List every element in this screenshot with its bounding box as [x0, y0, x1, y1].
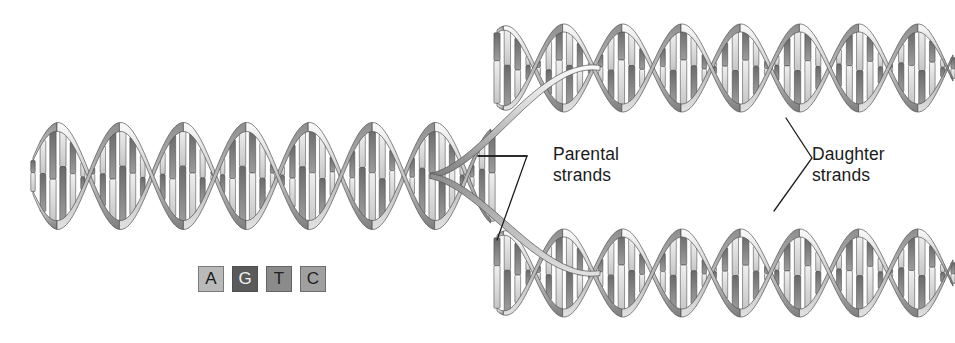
- base-pair-rung: [120, 129, 126, 167]
- base-pair-rung: [494, 61, 500, 104]
- base-pair-rung: [732, 31, 738, 71]
- base-pair-rung: [40, 174, 46, 212]
- base-pair-rung: [857, 29, 863, 70]
- base-pair-rung: [110, 132, 116, 179]
- base-pair-rung: [732, 236, 738, 276]
- parental-label-line-1: Parental: [553, 144, 619, 165]
- base-pair-rung: [31, 173, 35, 192]
- base-pair-rung: [556, 265, 562, 310]
- base-pair-rung: [857, 276, 863, 312]
- base-pair-rung: [50, 179, 56, 222]
- base-pair-rung: [919, 30, 925, 71]
- base-pair-rung: [794, 30, 800, 71]
- base-pair-rung: [857, 71, 863, 107]
- base-pair-rung: [732, 71, 738, 106]
- base-pair-rung: [794, 276, 800, 312]
- parental-strands-label: Parental strands: [553, 144, 619, 186]
- base-pair-rung: [618, 265, 624, 312]
- base-pair-rung: [566, 31, 572, 65]
- base-pair-rung: [179, 128, 185, 166]
- base-box-c: C: [300, 266, 326, 292]
- base-pair-rung: [805, 266, 811, 309]
- base-pair-rung: [429, 173, 435, 223]
- base-pair-rung: [369, 128, 375, 173]
- base-box-a: A: [198, 266, 224, 292]
- ribbon-segment-front: [497, 103, 503, 110]
- base-pair-rung: [732, 276, 738, 311]
- base-letter: G: [238, 269, 251, 289]
- base-pair-rung: [680, 29, 686, 60]
- dna-replication-figure: Parental strands Daughter strands AGTC: [0, 0, 955, 343]
- base-pair-rung: [120, 166, 126, 223]
- base-pair-rung: [359, 167, 365, 217]
- base-letter: C: [307, 269, 319, 289]
- base-pair-rung: [429, 129, 435, 173]
- ribbon-segment-front: [497, 308, 503, 315]
- base-pair-rung: [680, 60, 686, 107]
- base-pair-rung: [309, 129, 315, 173]
- daughter-helix-bottom: [494, 229, 955, 317]
- base-pair-rung: [494, 266, 500, 309]
- parental-helix: [31, 123, 495, 230]
- base-pair-rung: [249, 130, 255, 172]
- base-pair-rung: [239, 129, 245, 166]
- base-pair-rung: [239, 166, 245, 222]
- base-box-g: G: [232, 266, 258, 292]
- leader-line-layer: [478, 118, 812, 240]
- base-pair-rung: [919, 71, 925, 106]
- base-pair-rung: [680, 234, 686, 265]
- base-pair-rung: [743, 60, 749, 105]
- daughter-strands-label: Daughter strands: [812, 144, 885, 186]
- base-pair-rung: [494, 238, 500, 266]
- base-box-t: T: [266, 266, 292, 292]
- base-pair-rung: [504, 65, 510, 106]
- base-pair-rung: [743, 265, 749, 310]
- base-pair-rung: [249, 173, 255, 222]
- base-pair-rung: [794, 235, 800, 276]
- base-pair-rung: [857, 234, 863, 275]
- parental-label-line-2: strands: [553, 165, 619, 186]
- base-pair-rung: [494, 33, 500, 61]
- base-pair-rung: [680, 265, 686, 312]
- base-pair-rung: [504, 270, 510, 311]
- base-pair-rung: [439, 179, 445, 221]
- base-pair-rung: [179, 166, 185, 224]
- base-pair-rung: [618, 234, 624, 265]
- base-letter: T: [274, 269, 284, 289]
- base-pair-rung: [504, 235, 510, 271]
- base-pair-rung: [299, 167, 305, 221]
- base-pair-rung: [504, 30, 510, 66]
- base-pair-rung: [919, 235, 925, 275]
- ribbon-segment-back: [497, 26, 503, 33]
- base-pair-rung: [618, 60, 624, 107]
- base-pair-rung: [190, 173, 196, 219]
- daughter-helix-top: [494, 24, 955, 112]
- base-pair-rung: [566, 236, 572, 270]
- base-pair-rung: [31, 160, 35, 172]
- base-pair-rung: [908, 65, 914, 104]
- daughter-leader: [774, 118, 812, 211]
- base-pair-rung: [794, 71, 800, 107]
- base-pair-rung: [309, 173, 315, 224]
- base-pair-rung: [805, 61, 811, 104]
- daughter-label-line-2: strands: [812, 165, 885, 186]
- nucleotide-base-legend: AGTC: [198, 266, 326, 292]
- base-pair-rung: [369, 173, 375, 224]
- daughter-label-line-1: Daughter: [812, 144, 885, 165]
- base-pair-rung: [50, 129, 56, 179]
- base-pair-rung: [908, 270, 914, 309]
- base-letter: A: [205, 269, 216, 289]
- base-pair-rung: [919, 276, 925, 311]
- ribbon-segment-back: [503, 229, 562, 315]
- base-pair-rung: [566, 270, 572, 310]
- base-pair-rung: [618, 29, 624, 60]
- base-pair-rung: [60, 167, 66, 222]
- base-pair-rung: [556, 60, 562, 105]
- base-pair-rung: [110, 179, 116, 220]
- base-pair-rung: [379, 134, 385, 179]
